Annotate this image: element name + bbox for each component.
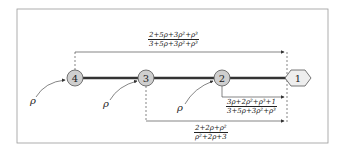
fraction-2-to-1: 3ρ+2ρ²+ρ³+1 3+5ρ+3ρ²+ρ³ (226, 98, 277, 115)
fraction-4-to-1: 2+5ρ+3ρ²+ρ³ 3+5ρ+3ρ²+ρ³ (148, 31, 199, 48)
input-arrow-2 (185, 81, 213, 104)
node-2: 2 (214, 70, 230, 86)
input-arrow-4 (36, 80, 65, 97)
svg-text:2: 2 (219, 73, 225, 84)
numerator: 3ρ+2ρ²+ρ³+1 (226, 98, 277, 107)
rho-label-4: ρ (29, 95, 36, 106)
rho-label-2: ρ (176, 102, 183, 113)
frame (17, 9, 328, 143)
denominator: ρ²+2ρ+3 (195, 133, 227, 141)
numerator: 2+5ρ+3ρ²+ρ³ (148, 31, 199, 40)
rho-label-3: ρ (102, 98, 109, 109)
svg-text:4: 4 (72, 73, 78, 84)
numerator: 2+2ρ+ρ² (194, 124, 228, 133)
diagram-canvas: 4 3 2 1 ρ ρ ρ (0, 0, 345, 154)
node-4: 4 (67, 70, 83, 86)
input-arrow-3 (110, 81, 137, 100)
denominator: 3+5ρ+3ρ²+ρ³ (227, 107, 276, 115)
fraction-3-to-1: 2+2ρ+ρ² ρ²+2ρ+3 (194, 124, 228, 141)
node-3: 3 (138, 70, 154, 86)
svg-text:1: 1 (295, 73, 301, 84)
node-1-hexagon: 1 (285, 70, 311, 86)
denominator: 3+5ρ+3ρ²+ρ³ (149, 40, 198, 48)
svg-text:3: 3 (143, 73, 149, 84)
